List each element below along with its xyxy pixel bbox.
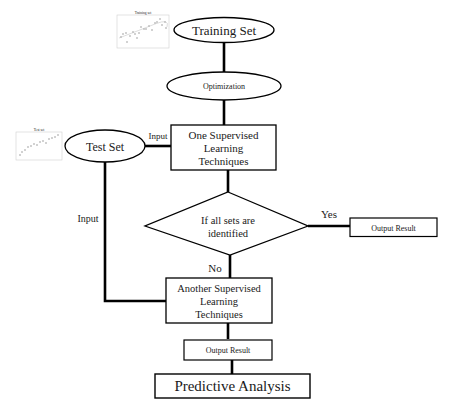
svg-text:One Supervised: One Supervised xyxy=(189,129,259,141)
svg-text:Learning: Learning xyxy=(200,296,239,307)
svg-text:Techniques: Techniques xyxy=(199,155,249,167)
svg-text:identified: identified xyxy=(208,228,249,239)
svg-text:Output Result: Output Result xyxy=(206,346,251,355)
input-label-top: Input xyxy=(149,131,168,141)
svg-text:Test set: Test set xyxy=(34,128,45,132)
svg-text:Output Result: Output Result xyxy=(371,224,416,233)
svg-text:Test Set: Test Set xyxy=(86,140,125,154)
svg-text:Learning: Learning xyxy=(204,142,244,154)
output-result-final-node: Output Result xyxy=(184,340,272,360)
training-scatter-thumbnail: Training set xyxy=(117,11,169,48)
optimization-node: Optimization xyxy=(167,72,281,100)
decision-node: If all sets are identified xyxy=(145,192,308,255)
svg-text:Training set: Training set xyxy=(135,11,152,15)
no-label: No xyxy=(208,262,222,274)
svg-text:Predictive Analysis: Predictive Analysis xyxy=(174,378,290,394)
svg-text:Another Supervised: Another Supervised xyxy=(177,283,261,294)
test-set-node: Test Set xyxy=(65,130,145,162)
yes-label: Yes xyxy=(321,208,337,220)
training-set-node: Training Set xyxy=(174,18,274,43)
svg-text:Optimization: Optimization xyxy=(203,82,245,91)
flowchart-canvas: Training set Test set xyxy=(0,0,451,413)
svg-text:Techniques: Techniques xyxy=(195,309,243,320)
one-supervised-node: One Supervised Learning Techniques xyxy=(171,125,276,170)
predictive-analysis-node: Predictive Analysis xyxy=(155,374,310,398)
svg-text:Training Set: Training Set xyxy=(192,23,257,38)
output-result-yes-node: Output Result xyxy=(350,218,437,237)
another-supervised-node: Another Supervised Learning Techniques xyxy=(166,278,272,323)
test-scatter-thumbnail: Test set xyxy=(16,128,62,160)
input-label-left: Input xyxy=(77,213,98,224)
svg-text:If all sets are: If all sets are xyxy=(201,215,255,226)
